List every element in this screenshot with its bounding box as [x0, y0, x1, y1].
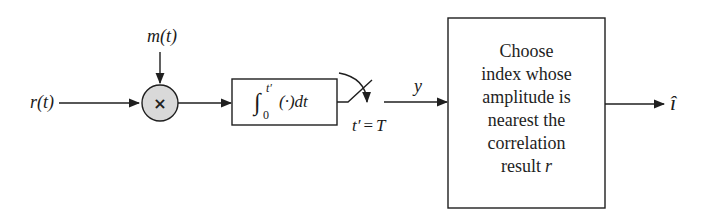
- integral-sign-icon: ∫: [252, 89, 262, 117]
- sample-output-label-y: y: [412, 76, 422, 96]
- correlation-receiver-diagram: r(t) m(t) × ∫ t′ 0 (·)dt t′=T y: [0, 0, 705, 218]
- decision-line-1: Choose: [500, 41, 554, 61]
- sampling-time-rhs: T: [376, 116, 387, 135]
- decision-line-4: nearest the: [488, 110, 565, 130]
- sampling-time-lhs: t′: [352, 116, 361, 135]
- integral-lower-limit: 0: [263, 108, 269, 122]
- decision-line-6-text: result: [501, 156, 541, 176]
- decision-line-2: index whose: [481, 64, 571, 84]
- integrator-block: ∫ t′ 0 (·)dt: [232, 79, 337, 125]
- decision-line-6: resultr: [501, 156, 553, 176]
- diagram-svg: r(t) m(t) × ∫ t′ 0 (·)dt t′=T y: [0, 0, 705, 218]
- decision-line-3: amplitude is: [482, 87, 571, 107]
- multiplier-node: ×: [142, 85, 178, 121]
- integrand: (·)dt: [279, 92, 309, 111]
- input-label-m-of-t: m(t): [147, 26, 177, 47]
- output-label-i-hat: î: [670, 90, 678, 115]
- input-label-r-of-t: r(t): [30, 92, 54, 113]
- decision-line-6-var: r: [545, 156, 553, 176]
- sampler-switch: t′=T: [337, 73, 387, 135]
- decision-block: Choose index whose amplitude is nearest …: [448, 18, 605, 208]
- sampling-time-eq: =: [363, 116, 373, 135]
- decision-line-5: correlation: [488, 133, 566, 153]
- multiply-icon: ×: [153, 94, 166, 113]
- integral-upper-limit: t′: [266, 81, 272, 95]
- sampling-time-label: t′=T: [352, 116, 387, 135]
